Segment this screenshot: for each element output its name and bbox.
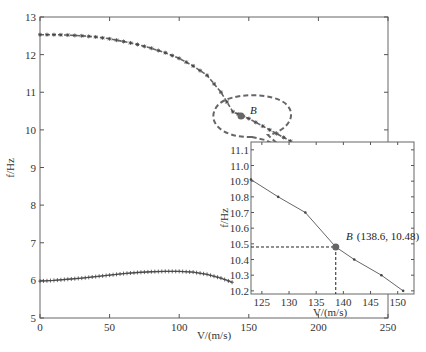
star-marker <box>73 33 77 37</box>
star-marker <box>191 64 195 68</box>
inset-x-tick-label: 130 <box>281 296 298 308</box>
main-y-tick-label: 9 <box>31 162 37 174</box>
main-y-tick-label: 8 <box>31 199 37 211</box>
plus-marker <box>167 269 171 273</box>
point-b-label: B <box>250 104 257 116</box>
star-marker <box>177 56 181 60</box>
star-marker <box>261 124 265 128</box>
star-marker <box>170 54 174 58</box>
plus-marker <box>66 277 70 281</box>
plus-marker <box>38 279 42 283</box>
plus-marker <box>45 279 49 283</box>
inset-plot: 125130135140145150 10.210.310.410.510.61… <box>218 142 419 319</box>
star-marker <box>282 135 286 139</box>
plus-marker <box>160 269 164 273</box>
plus-marker <box>70 277 74 281</box>
plus-marker <box>104 273 108 277</box>
main-y-tick-label: 6 <box>31 274 37 286</box>
plus-marker <box>87 275 91 279</box>
star-marker <box>205 73 209 77</box>
inset-dot-marker <box>277 196 280 199</box>
plus-marker <box>42 279 46 283</box>
plus-marker <box>143 270 147 274</box>
star-marker <box>45 33 49 37</box>
point-b-marker <box>238 113 245 120</box>
main-x-tick-label: 200 <box>310 321 327 333</box>
inset-y-tick-label: 10.5 <box>230 238 250 250</box>
star-marker <box>115 38 119 42</box>
main-y-tick-label: 7 <box>31 237 37 249</box>
mode-upper-line <box>40 35 291 141</box>
plus-marker <box>139 270 143 274</box>
main-x-tick-label: 100 <box>171 321 188 333</box>
main-y-tick-label: 12 <box>25 49 36 61</box>
plus-marker <box>101 274 105 278</box>
plus-marker <box>177 269 181 273</box>
main-y-tick-label: 5 <box>31 312 37 324</box>
plus-marker <box>163 269 167 273</box>
plus-marker <box>125 271 129 275</box>
star-marker <box>225 100 229 104</box>
plus-marker <box>170 269 174 273</box>
chart-canvas: 050100150200250 5678910111213 V/(m/s) f/… <box>0 0 426 352</box>
main-y-tick-label: 11 <box>25 86 36 98</box>
plus-marker <box>146 270 150 274</box>
star-marker <box>142 44 146 48</box>
star-marker <box>101 36 105 40</box>
inset-y-axis-label: f/Hz <box>218 208 230 228</box>
plus-marker <box>83 276 87 280</box>
star-marker <box>128 41 132 45</box>
star-marker <box>163 51 167 55</box>
star-marker <box>149 46 153 50</box>
plus-marker <box>118 272 122 276</box>
plus-marker <box>108 273 112 277</box>
plus-marker <box>56 278 60 282</box>
plus-marker <box>205 272 209 276</box>
star-marker <box>219 90 223 94</box>
plus-marker <box>122 272 126 276</box>
plus-marker <box>59 278 63 282</box>
star-marker <box>268 128 272 132</box>
inset-dot-marker <box>402 290 405 293</box>
b-callout: B <box>213 95 291 148</box>
plus-marker <box>49 279 53 283</box>
star-marker <box>254 120 258 124</box>
plus-marker <box>136 270 140 274</box>
inset-x-axis-label: V/(m/s) <box>313 306 348 319</box>
plus-marker <box>153 270 157 274</box>
inset-x-tick-label: 125 <box>254 296 271 308</box>
star-marker <box>108 37 112 41</box>
inset-dot-marker <box>304 211 307 214</box>
plus-marker <box>80 276 84 280</box>
plus-marker <box>184 270 188 274</box>
inset-y-tick-label: 10.6 <box>230 222 250 234</box>
plus-marker <box>52 278 56 282</box>
star-marker <box>135 42 139 46</box>
plus-marker <box>202 272 206 276</box>
plus-marker <box>181 270 185 274</box>
inset-point-b-marker <box>332 243 339 250</box>
plus-marker <box>157 270 161 274</box>
plus-marker <box>209 273 213 277</box>
main-x-axis-label: V/(m/s) <box>197 329 232 342</box>
plus-marker <box>219 276 223 280</box>
main-x-tick-label: 50 <box>104 321 116 333</box>
star-marker <box>87 34 91 38</box>
inset-point-b-label: B(138.6, 10.48) <box>346 230 419 243</box>
inset-y-tick-label: 10.3 <box>230 269 250 281</box>
inset-y-tick-label: 10.9 <box>230 175 250 187</box>
star-marker <box>156 48 160 52</box>
star-marker <box>59 33 63 37</box>
plus-marker <box>195 271 199 275</box>
inset-y-tick-label: 10.2 <box>230 285 249 297</box>
plus-marker <box>90 275 94 279</box>
inset-y-tick-label: 10.8 <box>230 191 250 203</box>
plus-marker <box>94 275 98 279</box>
inset-dot-marker <box>353 258 356 261</box>
star-marker <box>198 69 202 73</box>
plus-marker <box>216 275 220 279</box>
inset-plot-frame <box>251 142 414 294</box>
star-marker <box>122 39 126 43</box>
plus-marker <box>150 270 154 274</box>
plus-marker <box>76 276 80 280</box>
